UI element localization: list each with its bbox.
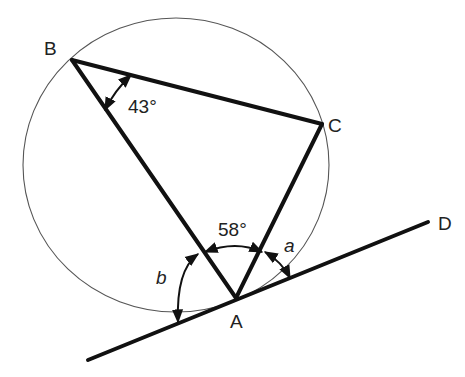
angle-a58-arc: [205, 246, 262, 252]
label-angle-58: 58°: [218, 219, 247, 240]
geometry-diagram: B C A D 43° 58° a b: [0, 0, 465, 377]
label-angle-a: a: [284, 235, 295, 256]
label-a: A: [230, 311, 243, 332]
label-b: B: [44, 38, 57, 59]
tangent-line: [88, 222, 428, 360]
label-angle-43: 43°: [128, 96, 157, 117]
label-c: C: [328, 115, 342, 136]
label-d: D: [438, 213, 452, 234]
label-angle-b: b: [156, 267, 167, 288]
